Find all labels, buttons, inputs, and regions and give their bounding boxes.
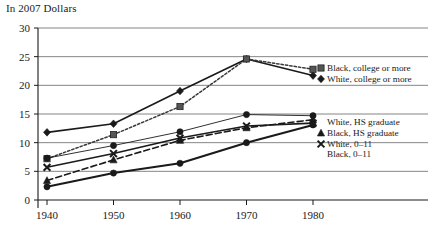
legend-label: White, HS graduate bbox=[327, 117, 400, 127]
legend-label: Black, college or more bbox=[327, 63, 411, 73]
data-point-marker bbox=[110, 120, 117, 128]
gridlines-group bbox=[38, 28, 428, 200]
y-tick-label: 30 bbox=[19, 22, 31, 34]
data-point-marker bbox=[310, 122, 316, 128]
data-point-marker bbox=[177, 160, 183, 166]
data-point-marker bbox=[318, 141, 325, 148]
data-point-marker bbox=[44, 184, 50, 190]
data-point-marker bbox=[110, 170, 116, 176]
series-line bbox=[47, 59, 313, 132]
x-tick-label: 1940 bbox=[36, 209, 59, 221]
data-point-marker bbox=[177, 87, 184, 95]
series-black-college-or-more bbox=[44, 56, 316, 162]
data-point-marker bbox=[310, 72, 317, 80]
data-point-marker bbox=[110, 142, 116, 148]
legend-label: White, college or more bbox=[327, 74, 412, 84]
data-point-marker bbox=[177, 129, 183, 135]
data-point-marker bbox=[310, 66, 316, 72]
y-tick-label: 0 bbox=[25, 194, 31, 206]
legend-label: Black, 0–11 bbox=[327, 149, 371, 159]
data-point-marker bbox=[318, 65, 324, 71]
data-point-marker bbox=[44, 155, 50, 161]
y-tick-label: 5 bbox=[25, 165, 31, 177]
chart-container: In 2007 Dollars 051015202530 19401950196… bbox=[0, 0, 428, 250]
data-point-marker bbox=[243, 56, 249, 62]
y-tick-labels-group: 051015202530 bbox=[19, 22, 31, 206]
series-black-hs-graduate bbox=[43, 116, 316, 184]
data-point-marker bbox=[243, 140, 249, 146]
data-point-marker bbox=[317, 129, 324, 136]
x-tick-label: 1960 bbox=[169, 209, 192, 221]
x-tick-labels-group: 19401950196019701980 bbox=[36, 209, 325, 221]
data-point-marker bbox=[177, 103, 183, 109]
x-tick-label: 1950 bbox=[103, 209, 126, 221]
chart-legend: Black, college or moreWhite, college or … bbox=[317, 63, 411, 159]
legend-label: White, 0–11 bbox=[327, 139, 372, 149]
data-point-marker bbox=[318, 75, 325, 83]
data-point-marker bbox=[44, 129, 51, 137]
y-tick-label: 25 bbox=[19, 51, 31, 63]
y-tick-label: 10 bbox=[19, 137, 31, 149]
data-point-marker bbox=[243, 111, 249, 117]
line-chart-plot: 051015202530 19401950196019701980 Black,… bbox=[0, 0, 428, 250]
legend-label: Black, HS graduate bbox=[327, 128, 399, 138]
y-tick-label: 20 bbox=[19, 79, 31, 91]
y-tick-label: 15 bbox=[19, 108, 31, 120]
x-tick-label: 1980 bbox=[302, 209, 325, 221]
x-tick-label: 1970 bbox=[236, 209, 259, 221]
data-series-group bbox=[43, 55, 316, 190]
data-point-marker bbox=[110, 132, 116, 138]
